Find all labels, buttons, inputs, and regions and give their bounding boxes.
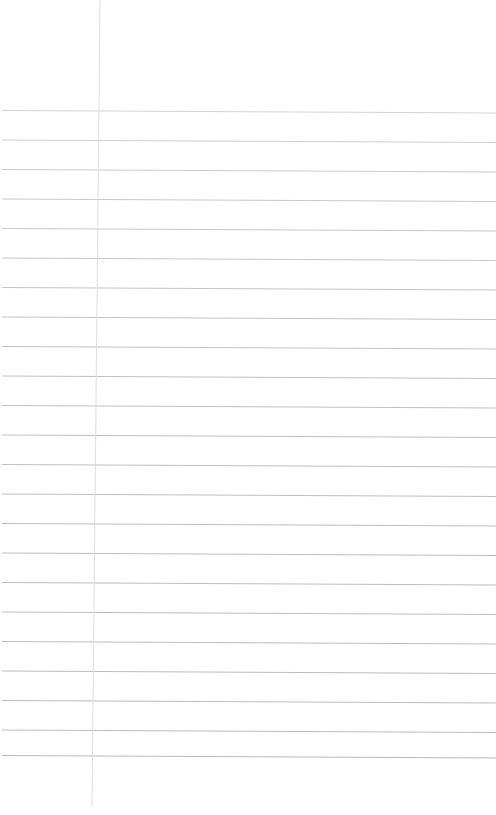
writing-line-6[interactable]: [0, 229, 496, 259]
lined-paper-page: [0, 0, 496, 815]
writing-line-17[interactable]: [0, 553, 496, 583]
writing-line-19[interactable]: [0, 612, 496, 642]
writing-line-9[interactable]: [0, 317, 496, 347]
writing-line-18[interactable]: [0, 583, 496, 613]
writing-line-3[interactable]: [0, 140, 496, 170]
writing-line-7[interactable]: [0, 258, 496, 288]
writing-line-8[interactable]: [0, 288, 496, 318]
writing-line-11[interactable]: [0, 376, 496, 406]
writing-line-20[interactable]: [0, 642, 496, 672]
writing-line-1[interactable]: [0, 81, 496, 111]
writing-line-5[interactable]: [0, 199, 496, 229]
writing-line-12[interactable]: [0, 406, 496, 436]
writing-line-23[interactable]: [0, 726, 496, 756]
writing-line-21[interactable]: [0, 671, 496, 701]
writing-line-14[interactable]: [0, 465, 496, 495]
writing-line-10[interactable]: [0, 347, 496, 377]
writing-line-15[interactable]: [0, 494, 496, 524]
writing-line-4[interactable]: [0, 170, 496, 200]
writing-line-16[interactable]: [0, 524, 496, 554]
writing-line-13[interactable]: [0, 435, 496, 465]
writing-line-2[interactable]: [0, 111, 496, 141]
